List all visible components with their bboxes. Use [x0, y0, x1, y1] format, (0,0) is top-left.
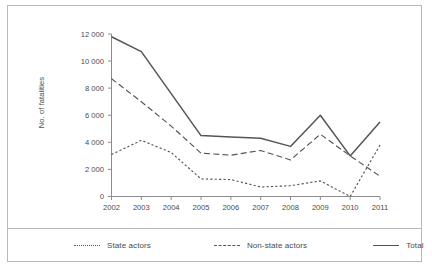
y-axis-ticks: [108, 34, 112, 197]
series-line-non-state-actors: [112, 79, 381, 177]
legend-item-total[interactable]: Total: [373, 241, 423, 250]
legend-swatch-dashed-icon: [214, 242, 240, 249]
legend-item-non-state-actors[interactable]: Non-state actors: [214, 241, 307, 250]
xtick-label-2008: 2008: [282, 203, 299, 212]
plot-region: No. of fatalities 0 2 000 4 000 6 000 8 …: [8, 6, 423, 228]
xtick-label-2003: 2003: [133, 203, 150, 212]
line-chart: 0 2 000 4 000 6 000 8 000 10 000 12 000 …: [8, 6, 423, 228]
xtick-label-2007: 2007: [252, 203, 269, 212]
xtick-label-2011: 2011: [372, 203, 388, 212]
xtick-label-2010: 2010: [342, 203, 359, 212]
figure-frame: No. of fatalities 0 2 000 4 000 6 000 8 …: [7, 5, 422, 262]
ytick-label-2000: 2 000: [85, 165, 104, 174]
xtick-label-2002: 2002: [103, 203, 120, 212]
legend-label-total: Total: [406, 241, 423, 250]
ytick-label-12000: 12 000: [81, 30, 104, 39]
ytick-label-0: 0: [100, 192, 104, 201]
legend-label-non-state-actors: Non-state actors: [247, 241, 307, 250]
x-axis-tick-labels: 2002200320042005200620072008200920102011: [103, 203, 388, 212]
legend-item-state-actors[interactable]: State actors: [74, 241, 151, 250]
legend-label-state-actors: State actors: [107, 241, 151, 250]
xtick-label-2009: 2009: [312, 203, 329, 212]
series-line-total: [112, 37, 381, 156]
x-axis-ticks: [112, 197, 381, 201]
legend-swatch-solid-icon: [373, 242, 399, 249]
xtick-label-2006: 2006: [222, 203, 239, 212]
xtick-label-2005: 2005: [193, 203, 210, 212]
ytick-label-6000: 6 000: [85, 111, 104, 120]
legend-swatch-dotted-icon: [74, 242, 100, 249]
ytick-label-10000: 10 000: [81, 57, 104, 66]
ytick-label-4000: 4 000: [85, 138, 104, 147]
ytick-label-8000: 8 000: [85, 84, 104, 93]
xtick-label-2004: 2004: [163, 203, 180, 212]
chart-legend: State actors Non-state actors Total: [8, 229, 421, 262]
